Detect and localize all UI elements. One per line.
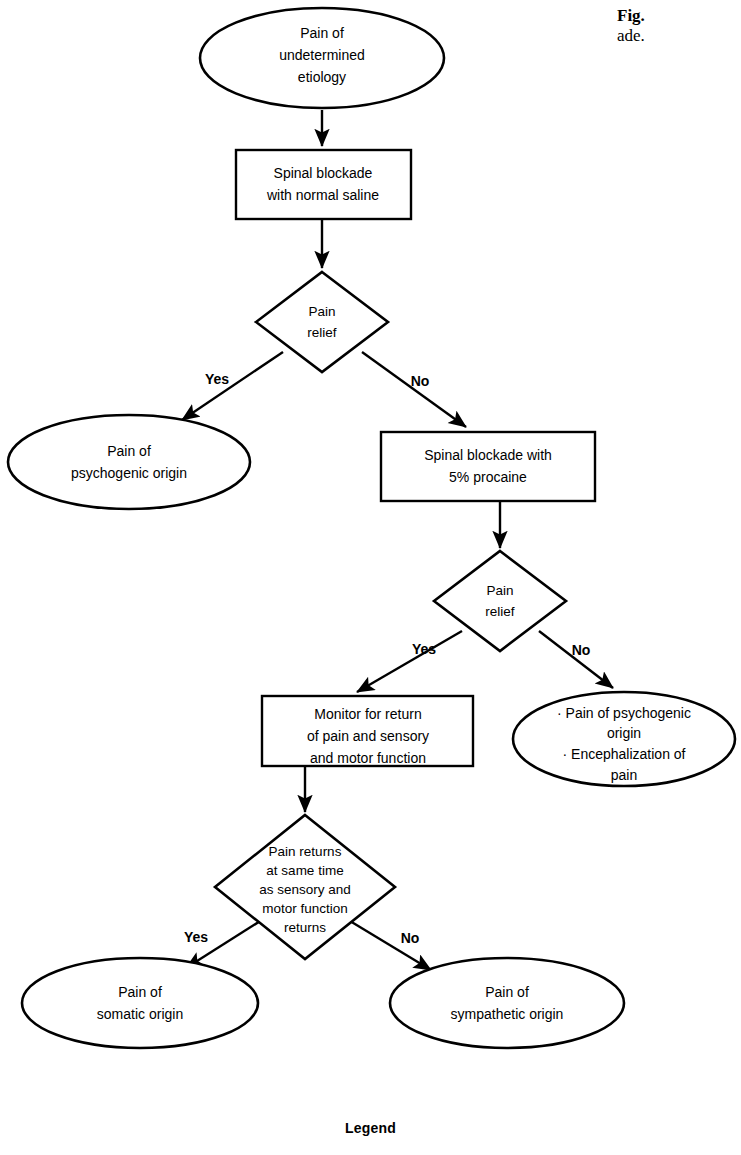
node-line: Pain of xyxy=(118,984,162,1000)
branch-label-d3-no: No xyxy=(401,930,420,946)
node-line: with normal saline xyxy=(266,187,379,203)
node-spinal-blockade-procaine: Spinal blockade with 5% procaine xyxy=(381,432,595,501)
branch-label-d3-yes: Yes xyxy=(184,929,208,945)
edge-d2-no-to-n6 xyxy=(539,631,613,688)
process-shape xyxy=(381,432,595,501)
node-line: · Pain of psychogenic xyxy=(557,705,691,721)
node-pain-sympathetic-origin: Pain of sympathetic origin xyxy=(390,958,624,1048)
edge-d1-yes-to-n3 xyxy=(182,352,283,420)
ellipse-shape xyxy=(390,958,624,1048)
node-line: Pain of xyxy=(107,443,151,459)
node-line: Pain of xyxy=(300,25,344,41)
node-line: returns xyxy=(284,920,326,935)
edge-d1-no-to-n4 xyxy=(362,352,466,427)
node-line: relief xyxy=(485,604,515,619)
node-monitor-for-return: Monitor for return of pain and sensory a… xyxy=(262,696,473,766)
node-line: origin xyxy=(607,725,641,741)
ellipse-shape xyxy=(8,415,250,509)
node-pain-somatic-origin: Pain of somatic origin xyxy=(22,958,258,1048)
branch-label-d1-no: No xyxy=(411,373,430,389)
node-line: Pain xyxy=(486,583,513,598)
connectors xyxy=(182,110,613,970)
node-line: Spinal blockade with xyxy=(424,447,552,463)
node-psychogenic-encephalization: · Pain of psychogenic origin · Encephali… xyxy=(513,692,735,786)
node-line: somatic origin xyxy=(97,1006,183,1022)
node-line: Pain of xyxy=(485,984,529,1000)
node-line: relief xyxy=(307,325,337,340)
decision-pain-returns-timing: Pain returns at same time as sensory and… xyxy=(215,815,395,959)
node-pain-psychogenic-origin: Pain of psychogenic origin xyxy=(8,415,250,509)
node-line: Pain returns xyxy=(269,844,342,859)
node-line: Monitor for return xyxy=(314,706,421,722)
flowchart-canvas: Pain of undetermined etiology Spinal blo… xyxy=(0,0,741,1155)
node-line: Spinal blockade xyxy=(274,165,373,181)
node-line: · Encephalization of xyxy=(563,746,686,762)
legend-label: Legend xyxy=(0,1120,741,1136)
node-line: sympathetic origin xyxy=(451,1006,564,1022)
branch-label-d2-no: No xyxy=(572,642,591,658)
node-line: as sensory and xyxy=(259,882,351,897)
ellipse-shape xyxy=(22,958,258,1048)
node-line: pain xyxy=(611,767,637,783)
process-shape xyxy=(236,150,411,219)
branch-label-d1-yes: Yes xyxy=(205,371,229,387)
node-line: and motor function xyxy=(310,750,426,766)
node-line: Pain xyxy=(308,304,335,319)
node-line: motor function xyxy=(262,901,348,916)
edge-d2-yes-to-n5 xyxy=(357,631,462,692)
node-line: 5% procaine xyxy=(449,469,527,485)
node-line: of pain and sensory xyxy=(307,728,429,744)
node-line: undetermined xyxy=(279,47,365,63)
node-line: at same time xyxy=(266,863,343,878)
node-spinal-blockade-saline: Spinal blockade with normal saline xyxy=(236,150,411,219)
branch-label-d2-yes: Yes xyxy=(412,641,436,657)
node-line: etiology xyxy=(298,69,346,85)
node-line: psychogenic origin xyxy=(71,465,187,481)
node-pain-undetermined-etiology: Pain of undetermined etiology xyxy=(200,8,444,108)
